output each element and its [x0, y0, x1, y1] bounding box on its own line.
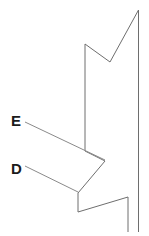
callout-label-e: E [11, 113, 21, 128]
line-drawing-svg [0, 0, 149, 236]
figure-canvas: E D [0, 0, 149, 236]
callout-label-d: D [11, 161, 22, 176]
outline-lower-body [78, 151, 128, 232]
leader-line-e [25, 122, 105, 160]
leader-line-d [25, 166, 78, 192]
outline-upper-notch [85, 10, 139, 151]
